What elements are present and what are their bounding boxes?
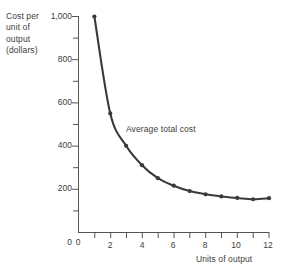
data-point <box>188 189 192 193</box>
plot-area <box>0 0 288 272</box>
data-point <box>251 197 255 201</box>
data-point <box>172 184 176 188</box>
data-point <box>219 194 223 198</box>
data-point <box>203 192 207 196</box>
data-point <box>92 14 96 18</box>
y-major-ticks <box>72 17 78 190</box>
y-minor-ticks <box>73 38 78 211</box>
data-point <box>235 196 239 200</box>
data-point <box>156 176 160 180</box>
data-point <box>267 196 271 200</box>
data-point <box>108 111 112 115</box>
data-point <box>140 163 144 167</box>
series-line-average-total-cost <box>94 17 269 200</box>
series-markers-average-total-cost <box>92 14 271 201</box>
chart-figure: Cost per unit of output (dollars) 1,000 … <box>0 0 288 272</box>
data-point <box>124 144 128 148</box>
